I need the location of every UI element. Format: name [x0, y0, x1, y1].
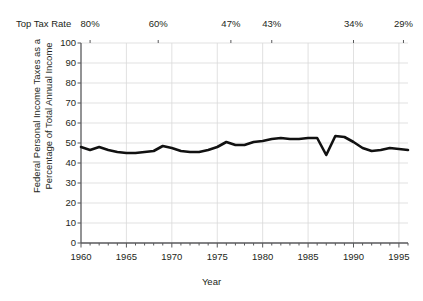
plot-area [0, 0, 423, 301]
x-axis-label: Year [0, 276, 423, 287]
chart-figure: Top Tax Rate 80%60%47%43%34%29% Federal … [0, 0, 423, 301]
data-series-line [81, 136, 408, 155]
